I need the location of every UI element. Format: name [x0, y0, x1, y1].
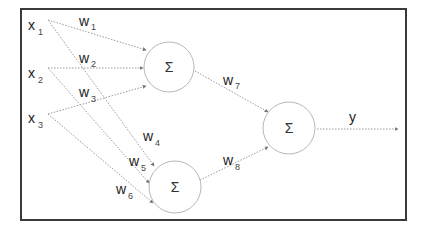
svg-text:2: 2: [38, 75, 43, 85]
sigma-symbol: Σ: [285, 120, 294, 136]
output-label-y: y: [349, 109, 356, 125]
sigma-symbol: Σ: [165, 59, 174, 75]
svg-text:w: w: [222, 72, 234, 88]
input-label-x2: x 2: [28, 65, 43, 85]
edge-w3: [48, 86, 146, 114]
summation-node-output: Σ: [263, 102, 315, 154]
svg-text:x: x: [28, 17, 35, 33]
svg-text:7: 7: [235, 81, 240, 91]
edge-w8: [200, 147, 268, 180]
weight-label-w2: w 2: [78, 50, 96, 69]
svg-text:w: w: [115, 181, 127, 197]
weight-label-w8: w 8: [222, 152, 240, 172]
svg-text:x: x: [28, 110, 35, 126]
svg-text:5: 5: [141, 163, 146, 173]
weight-label-w1: w 1: [78, 13, 96, 32]
svg-text:2: 2: [91, 59, 96, 69]
edge-w1: [48, 20, 146, 50]
weight-label-w3: w 3: [78, 84, 96, 104]
svg-text:w: w: [78, 84, 90, 100]
svg-text:w: w: [78, 13, 90, 29]
edge-w4: [48, 20, 154, 166]
svg-text:x: x: [28, 65, 35, 81]
neural-network-diagram: Σ Σ Σ x 1 x 2 x 3 w 1 w 2 w 3 w 4 w 5 w: [0, 0, 424, 232]
summation-node-h1: Σ: [144, 42, 194, 92]
svg-text:6: 6: [128, 191, 133, 201]
summation-node-h2: Σ: [149, 161, 201, 213]
input-label-x3: x 3: [28, 110, 43, 130]
weight-label-w4: w 4: [142, 128, 160, 148]
svg-text:w: w: [78, 50, 90, 66]
svg-text:w: w: [142, 128, 154, 144]
svg-text:8: 8: [235, 162, 240, 172]
svg-text:3: 3: [38, 120, 43, 130]
svg-text:w: w: [128, 153, 140, 169]
svg-text:4: 4: [155, 138, 160, 148]
svg-text:w: w: [222, 152, 234, 168]
input-label-x1: x 1: [28, 17, 43, 37]
svg-text:1: 1: [91, 22, 96, 32]
svg-text:1: 1: [38, 27, 43, 37]
svg-text:3: 3: [91, 94, 96, 104]
sigma-symbol: Σ: [171, 179, 180, 195]
